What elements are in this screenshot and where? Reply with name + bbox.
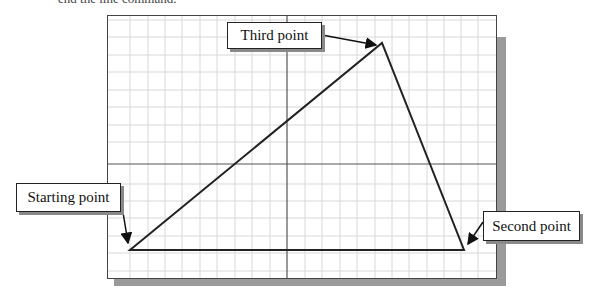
starting-point-leader xyxy=(121,200,128,243)
second-point-leader xyxy=(468,222,483,244)
third-point-label: Third point xyxy=(241,27,309,44)
second-point-callout: Second point xyxy=(483,211,580,241)
second-point-label: Second point xyxy=(492,218,571,235)
grid-lines xyxy=(108,16,496,278)
third-point-callout: Third point xyxy=(227,22,322,49)
starting-point-label: Starting point xyxy=(27,189,109,206)
starting-point-callout: Starting point xyxy=(16,183,121,212)
triangle xyxy=(130,43,464,250)
